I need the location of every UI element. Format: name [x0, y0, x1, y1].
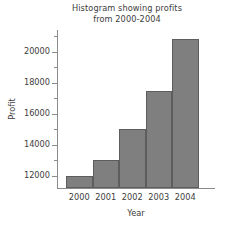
- chart-title-line-1: Histogram showing profits: [0, 3, 236, 14]
- x-tick-label: 2004: [169, 192, 202, 202]
- y-tick-label: 20000: [6, 47, 50, 56]
- y-tick-label: 18000: [6, 78, 50, 87]
- bar: [146, 91, 173, 188]
- histogram-chart: Histogram showing profits from 2000-2004…: [0, 0, 236, 228]
- y-tick-label: 12000: [6, 171, 50, 180]
- bar-series: [58, 30, 215, 188]
- x-axis-line: [57, 188, 215, 189]
- chart-title-line-2: from 2000-2004: [0, 14, 236, 25]
- y-tick-label: 16000: [6, 109, 50, 118]
- bar: [119, 129, 146, 188]
- bar: [66, 176, 93, 188]
- bar: [172, 39, 199, 188]
- x-axis-title: Year: [57, 208, 215, 218]
- y-tick-label: 14000: [6, 140, 50, 149]
- chart-title: Histogram showing profits from 2000-2004: [0, 3, 236, 25]
- bar: [93, 160, 120, 188]
